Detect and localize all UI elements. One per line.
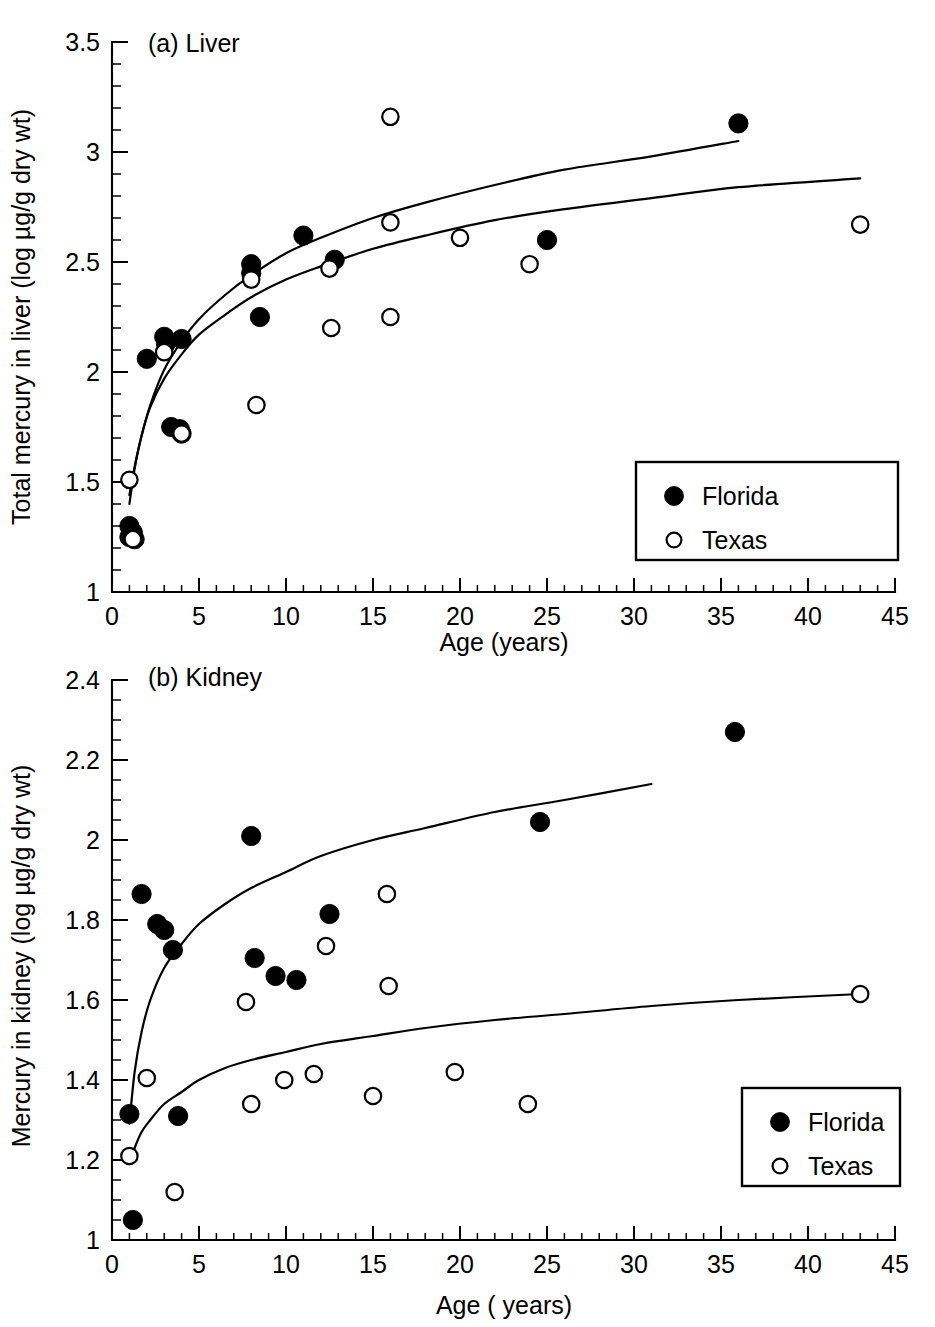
data-point-texas (521, 256, 537, 272)
x-tick-label: 45 (881, 602, 909, 630)
y-tick-label: 1.2 (65, 1146, 100, 1174)
data-point-texas (447, 1064, 463, 1080)
x-tick-label: 0 (105, 602, 119, 630)
data-point-texas (306, 1066, 322, 1082)
x-tick-label: 45 (881, 1250, 909, 1278)
fit-curve-florida (129, 784, 651, 1124)
data-point-florida (294, 226, 313, 245)
data-point-texas (382, 109, 398, 125)
y-tick-label: 1.6 (65, 986, 100, 1014)
y-tick-label: 2.5 (65, 248, 100, 276)
x-tick-label: 40 (794, 602, 822, 630)
data-point-texas (173, 425, 189, 441)
data-point-texas (166, 1184, 182, 1200)
y-tick-label: 2.2 (65, 746, 100, 774)
liver-legend[interactable]: FloridaTexas (636, 462, 898, 560)
data-point-texas (452, 230, 468, 246)
y-tick-label: 3 (86, 138, 100, 166)
data-point-florida (320, 904, 339, 923)
legend-label-florida[interactable]: Florida (808, 1108, 885, 1136)
y-tick-label: 1 (86, 1226, 100, 1254)
data-point-florida (120, 1104, 139, 1123)
data-point-florida (537, 230, 556, 249)
x-tick-label: 25 (533, 602, 561, 630)
data-point-texas (243, 1096, 259, 1112)
data-point-texas (380, 978, 396, 994)
data-point-texas (852, 986, 868, 1002)
data-point-florida (155, 920, 174, 939)
data-point-texas (520, 1096, 536, 1112)
data-point-texas (243, 271, 259, 287)
x-tick-label: 10 (272, 602, 300, 630)
data-point-texas (248, 397, 264, 413)
legend-label-florida[interactable]: Florida (702, 482, 779, 510)
y-tick-label: 1.5 (65, 468, 100, 496)
legend-label-texas[interactable]: Texas (702, 526, 767, 554)
x-tick-label: 20 (446, 1250, 474, 1278)
liver-y-axis-title: Total mercury in liver (log µg/g dry wt) (7, 109, 35, 525)
kidney-panel-title: (b) Kidney (148, 663, 262, 691)
data-point-florida (172, 329, 191, 348)
kidney-x-axis-title: Age ( years) (436, 1291, 572, 1319)
y-tick-label: 3.5 (65, 28, 100, 56)
liver-fit-curves (129, 141, 860, 504)
data-point-texas (139, 1070, 155, 1086)
y-tick-label: 1 (86, 578, 100, 606)
data-point-texas (276, 1072, 292, 1088)
x-tick-label: 25 (533, 1250, 561, 1278)
fit-curve-texas (129, 178, 860, 504)
x-tick-label: 5 (192, 602, 206, 630)
x-tick-label: 5 (192, 1250, 206, 1278)
data-point-texas (365, 1088, 381, 1104)
x-tick-label: 30 (620, 1250, 648, 1278)
data-point-texas (156, 344, 172, 360)
data-point-florida (123, 1210, 142, 1229)
data-point-florida (242, 826, 261, 845)
legend-marker-florida (771, 1113, 790, 1132)
liver-chart-svg: 05101520253035404511.522.533.5 (a) Liver… (0, 0, 935, 664)
kidney-y-axis-title: Mercury in kidney (log µg/g dry wt) (7, 765, 35, 1148)
y-tick-label: 2 (86, 826, 100, 854)
data-point-florida (266, 966, 285, 985)
liver-panel-title: (a) Liver (148, 29, 240, 57)
data-point-texas (852, 216, 868, 232)
legend-label-texas[interactable]: Texas (808, 1152, 873, 1180)
x-tick-label: 40 (794, 1250, 822, 1278)
data-point-florida (250, 307, 269, 326)
y-tick-label: 2 (86, 358, 100, 386)
legend-marker-texas (773, 1159, 788, 1174)
x-tick-label: 30 (620, 602, 648, 630)
data-point-texas (379, 886, 395, 902)
x-tick-label: 10 (272, 1250, 300, 1278)
data-point-florida (729, 114, 748, 133)
data-point-florida (530, 812, 549, 831)
data-point-florida (169, 1106, 188, 1125)
x-tick-label: 20 (446, 602, 474, 630)
data-point-florida (137, 349, 156, 368)
kidney-chart-svg: 05101520253035404511.21.41.61.822.22.4 (… (0, 636, 935, 1327)
data-point-texas (121, 472, 137, 488)
data-point-texas (125, 531, 141, 547)
data-point-texas (238, 994, 254, 1010)
legend-marker-texas (667, 533, 682, 548)
x-tick-label: 0 (105, 1250, 119, 1278)
x-tick-label: 15 (359, 1250, 387, 1278)
figure-page: 05101520253035404511.522.533.5 (a) Liver… (0, 0, 935, 1327)
x-tick-label: 35 (707, 602, 735, 630)
data-point-texas (382, 309, 398, 325)
y-tick-label: 1.4 (65, 1066, 100, 1094)
data-point-texas (121, 1148, 137, 1164)
data-point-florida (163, 940, 182, 959)
y-tick-label: 1.8 (65, 906, 100, 934)
y-tick-label: 2.4 (65, 666, 100, 694)
data-point-florida (725, 722, 744, 741)
kidney-legend[interactable]: FloridaTexas (742, 1088, 900, 1186)
chart-panel-kidney: 05101520253035404511.21.41.61.822.22.4 (… (0, 636, 935, 1327)
chart-panel-liver: 05101520253035404511.522.533.5 (a) Liver… (0, 0, 935, 664)
data-point-texas (323, 320, 339, 336)
data-point-florida (132, 884, 151, 903)
data-point-texas (382, 214, 398, 230)
data-point-texas (318, 938, 334, 954)
data-point-florida (287, 970, 306, 989)
x-tick-label: 35 (707, 1250, 735, 1278)
